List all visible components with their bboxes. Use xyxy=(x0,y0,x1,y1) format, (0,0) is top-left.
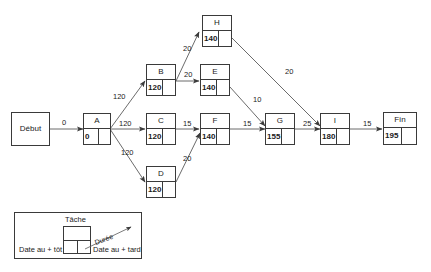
node-I-body: 180 xyxy=(321,129,349,144)
node-fin-late xyxy=(402,128,416,144)
node-A-label: A xyxy=(84,114,110,129)
node-G-late xyxy=(282,129,294,144)
node-debut-label: Début xyxy=(20,125,41,133)
node-debut[interactable]: Début xyxy=(11,112,50,146)
node-D-label: D xyxy=(147,167,175,182)
node-G-body: 155 xyxy=(266,129,294,144)
node-I-label: I xyxy=(321,114,349,129)
edge-label-D-F: 20 xyxy=(183,155,191,163)
node-D[interactable]: D 120 xyxy=(146,166,176,198)
edge-label-E-G: 10 xyxy=(253,96,261,104)
edge-label-B-H: 20 xyxy=(183,45,191,53)
node-fin-body: 195 xyxy=(384,128,416,144)
legend-late-label: Date au + tard xyxy=(93,246,141,254)
legend-task-label: Tâche xyxy=(65,216,86,224)
node-G-label: G xyxy=(266,114,294,129)
node-F-late xyxy=(217,129,229,144)
node-E-late xyxy=(217,80,229,95)
node-B-label: B xyxy=(147,65,175,80)
node-A-late xyxy=(99,129,110,144)
node-A-early: 0 xyxy=(84,129,99,144)
edge-label-G-I: 25 xyxy=(303,120,311,128)
node-E[interactable]: E 140 xyxy=(200,64,230,96)
node-A[interactable]: A 0 xyxy=(83,113,111,145)
node-B[interactable]: B 120 xyxy=(146,64,176,96)
node-C-label: C xyxy=(147,114,175,129)
node-F-body: 140 xyxy=(201,129,229,144)
node-C-late xyxy=(163,129,175,144)
node-H[interactable]: H 140 xyxy=(202,15,232,47)
legend-early-label: Date au + tôt xyxy=(19,246,62,254)
legend-inner: Tâche Durée Date au + tôt Date au + tard xyxy=(15,213,141,258)
node-D-body: 120 xyxy=(147,182,175,197)
pert-diagram-canvas: Début A 0 B 120 C 120 D 120 E xyxy=(0,0,431,272)
node-B-body: 120 xyxy=(147,80,175,95)
node-fin-early: 195 xyxy=(384,128,402,144)
edge-label-H-I: 20 xyxy=(285,68,293,76)
edge-label-A-C: 120 xyxy=(119,120,132,128)
node-C[interactable]: C 120 xyxy=(146,113,176,145)
node-G[interactable]: G 155 xyxy=(265,113,295,145)
edge-label-A-D: 120 xyxy=(121,149,134,157)
node-G-early: 155 xyxy=(266,129,282,144)
node-fin-label: Fin xyxy=(384,113,416,128)
edge-label-F-G: 15 xyxy=(243,120,251,128)
node-H-label: H xyxy=(203,16,231,31)
legend-panel: Tâche Durée Date au + tôt Date au + tard xyxy=(14,212,142,259)
node-I-late xyxy=(337,129,349,144)
node-C-body: 120 xyxy=(147,129,175,144)
edge-label-C-F: 15 xyxy=(183,120,191,128)
node-B-early: 120 xyxy=(147,80,163,95)
node-D-early: 120 xyxy=(147,182,163,197)
edge-label-debut-A: 0 xyxy=(62,119,66,127)
edge-label-B-E: 20 xyxy=(184,71,192,79)
node-C-early: 120 xyxy=(147,129,163,144)
node-E-early: 140 xyxy=(201,80,217,95)
node-I-early: 180 xyxy=(321,129,337,144)
node-F[interactable]: F 140 xyxy=(200,113,230,145)
node-B-late xyxy=(163,80,175,95)
node-H-body: 140 xyxy=(203,31,231,46)
node-H-early: 140 xyxy=(203,31,219,46)
node-I[interactable]: I 180 xyxy=(320,113,350,145)
node-E-body: 140 xyxy=(201,80,229,95)
node-D-late xyxy=(163,182,175,197)
node-F-label: F xyxy=(201,114,229,129)
edge-label-I-fin: 15 xyxy=(363,120,371,128)
node-A-body: 0 xyxy=(84,129,110,144)
node-E-label: E xyxy=(201,65,229,80)
node-H-late xyxy=(219,31,231,46)
node-F-early: 140 xyxy=(201,129,217,144)
edge-label-A-B: 120 xyxy=(113,93,126,101)
node-fin[interactable]: Fin 195 xyxy=(383,112,417,145)
